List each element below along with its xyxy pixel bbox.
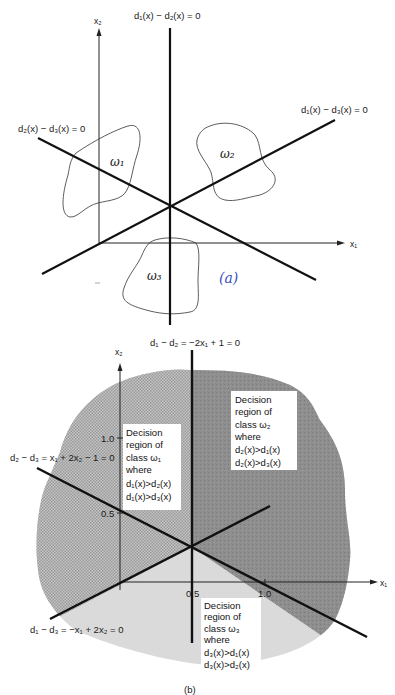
svg-text:where: where xyxy=(203,634,230,645)
class-label-omega2-a: ω₂ xyxy=(220,147,235,161)
x2-axis-label-b: x₂ xyxy=(115,347,123,357)
class-label-omega1-a: ω₁ xyxy=(110,155,125,169)
boundary-label-d1-d3-a: d₁(x) − d₃(x) = 0 xyxy=(301,104,368,115)
handwritten-caption-a: (a) xyxy=(219,270,238,286)
svg-text:where: where xyxy=(234,431,261,442)
svg-text:Decision: Decision xyxy=(235,394,271,405)
x1-arrow-icon xyxy=(337,241,345,246)
region-omega2-description: Decision region of class ω₂ where d₂(x)>… xyxy=(231,391,297,470)
y-tick-label-05: 0.5 xyxy=(101,508,114,519)
svg-text:d₃(x)>d₁(x): d₃(x)>d₁(x) xyxy=(204,647,249,658)
svg-text:d₁(x)>d₂(x): d₁(x)>d₂(x) xyxy=(126,478,171,489)
class-label-omega3-a: ω₃ xyxy=(147,269,162,283)
decision-boundaries-figure: x₂ x₁ d₁(x) − d₂(x) = 0 d₁(x) − d₃(x) = … xyxy=(0,0,395,695)
svg-text:Decision: Decision xyxy=(126,427,162,438)
svg-text:where: where xyxy=(125,464,152,475)
svg-text:d₁(x)>d₃(x): d₁(x)>d₃(x) xyxy=(126,491,171,502)
svg-text:region of: region of xyxy=(126,439,163,450)
boundary-label-d1-d3-b: d₁ − d₃ = −x₁ + 2x₂ = 0 xyxy=(30,624,123,635)
boundary-label-d1-d2-b: d₁ − d₂ = −2x₁ + 1 = 0 xyxy=(150,337,240,348)
svg-text:d₃(x)>d₂(x): d₃(x)>d₂(x) xyxy=(204,659,250,670)
class-omega2-cluster xyxy=(197,123,275,200)
x2-arrow-icon xyxy=(97,28,102,36)
x-tick-label-1: 1.0 xyxy=(258,588,271,599)
x1-axis-label-a: x₁ xyxy=(350,239,357,249)
region-omega1-description: Decision region of class ω₁ where d₁(x)>… xyxy=(123,424,181,510)
x2-arrow-icon-b xyxy=(118,363,123,371)
svg-text:d₂(x)>d₁(x): d₂(x)>d₁(x) xyxy=(235,444,280,455)
boundary-label-d2-d3-a: d₂(x) − d₃(x) = 0 xyxy=(18,123,85,134)
figure-b: x₂ x₁ 0.5 1.0 0.5 1.0 d₁ − d₂ = −2x₁ + 1… xyxy=(0,337,395,695)
x2-axis-label-a: x₂ xyxy=(94,16,102,26)
boundary-label-d2-d3-b: d₂ − d₃ = x₁ + 2x₂ − 1 = 0 xyxy=(10,452,115,463)
figure-a: x₂ x₁ d₁(x) − d₂(x) = 0 d₁(x) − d₃(x) = … xyxy=(18,10,368,325)
svg-text:class ω₃: class ω₃ xyxy=(204,623,240,634)
svg-text:class ω₁: class ω₁ xyxy=(126,452,161,463)
y-tick-label-1: 1.0 xyxy=(101,433,114,444)
x1-axis-label-b: x₁ xyxy=(380,578,387,588)
boundary-d2-d3-a xyxy=(38,138,316,280)
svg-text:Decision: Decision xyxy=(204,600,240,611)
x1-arrow-icon-b xyxy=(370,580,378,585)
region-omega3-description: Decision region of class ω₃ where d₃(x)>… xyxy=(201,598,261,674)
svg-text:region of: region of xyxy=(204,611,241,622)
figure-caption-b: (b) xyxy=(184,684,196,695)
svg-text:region of: region of xyxy=(235,406,272,417)
boundary-label-d1-d2-a: d₁(x) − d₂(x) = 0 xyxy=(134,10,201,21)
svg-text:d₂(x)>d₃(x): d₂(x)>d₃(x) xyxy=(235,457,281,468)
boundary-d1-d3-a xyxy=(42,120,335,274)
svg-text:class ω₂: class ω₂ xyxy=(235,419,271,430)
